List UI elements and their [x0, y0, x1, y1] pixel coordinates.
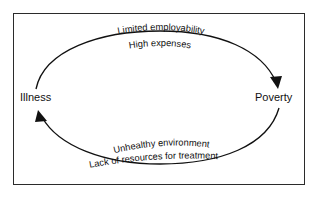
arc-label-lack-of-resources: Lack of resources for treatment: [88, 150, 218, 169]
arc-label-limited-employability-text: Limited employability: [117, 22, 206, 36]
node-label-poverty: Poverty: [255, 91, 293, 103]
arrowhead-to-illness-icon: [35, 110, 47, 122]
arc-label-limited-employability: Limited employability: [117, 22, 206, 36]
node-label-illness: Illness: [20, 91, 52, 103]
arc-illness-to-poverty: [36, 31, 276, 89]
vicious-cycle-diagram: Illness Poverty Limited employability Hi…: [0, 0, 321, 200]
diagram-page: Illness Poverty Limited employability Hi…: [0, 0, 321, 200]
arc-label-lack-of-resources-text: Lack of resources for treatment: [88, 150, 218, 169]
arc-label-high-expenses: High expenses: [128, 38, 192, 50]
arrowhead-to-poverty-icon: [270, 76, 282, 89]
arc-label-high-expenses-text: High expenses: [128, 38, 192, 50]
